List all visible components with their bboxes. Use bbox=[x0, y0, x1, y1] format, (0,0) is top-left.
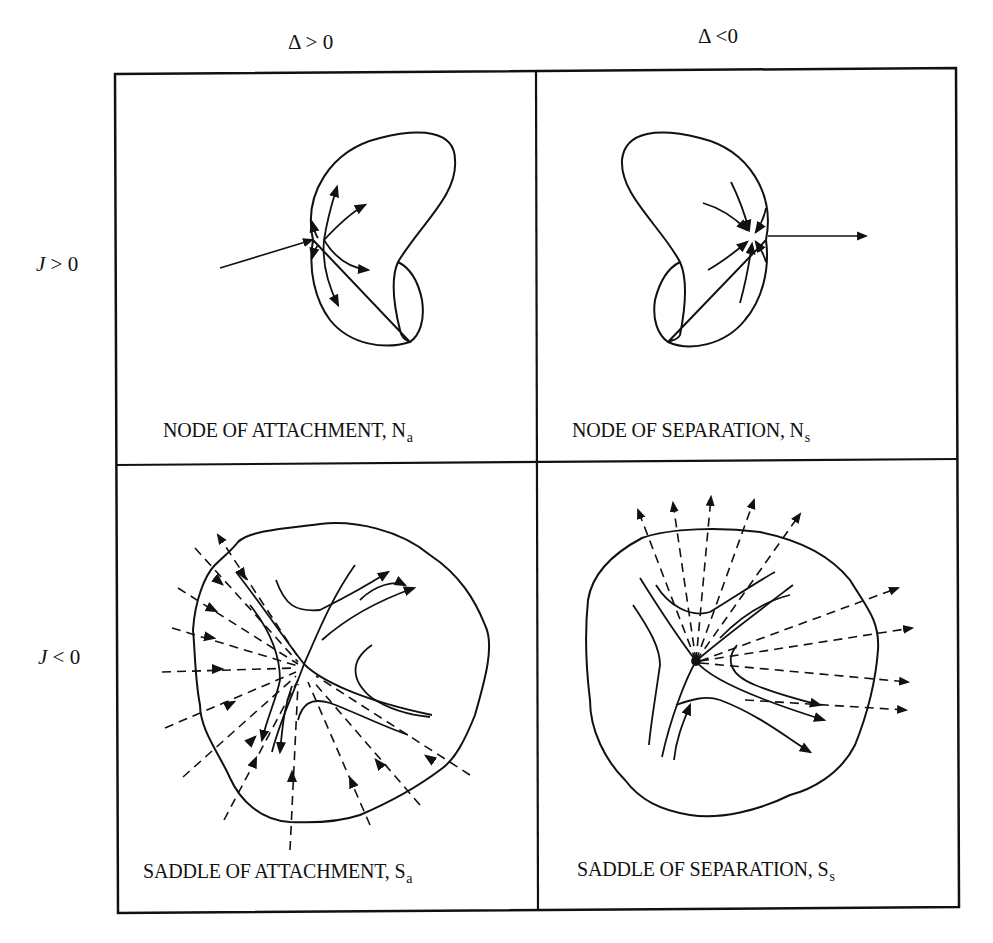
node-of-separation-drawing bbox=[622, 133, 866, 347]
cell-label-subscript: a bbox=[407, 430, 413, 445]
cell-label-text: NODE OF ATTACHMENT, N bbox=[163, 419, 406, 441]
cell-label-subscript: s bbox=[805, 430, 810, 445]
cell-label-saddle-of-separation: SADDLE OF SEPARATION, Ss bbox=[577, 858, 835, 885]
saddle-of-separation-drawing bbox=[586, 497, 912, 816]
cell-label-subscript: a bbox=[406, 871, 412, 886]
diagram-grid bbox=[0, 0, 993, 943]
cell-label-node-of-attachment: NODE OF ATTACHMENT, Na bbox=[163, 419, 413, 446]
cell-label-subscript: s bbox=[829, 869, 834, 884]
cell-label-text: NODE OF SEPARATION, N bbox=[572, 419, 804, 441]
cell-label-node-of-separation: NODE OF SEPARATION, Ns bbox=[572, 419, 810, 446]
saddle-of-attachment-drawing bbox=[162, 523, 489, 850]
grid-vertical-divider bbox=[536, 71, 538, 910]
cell-label-saddle-of-attachment: SADDLE OF ATTACHMENT, Sa bbox=[143, 860, 412, 887]
cell-label-text: SADDLE OF SEPARATION, S bbox=[577, 858, 828, 880]
cell-label-text: SADDLE OF ATTACHMENT, S bbox=[143, 860, 405, 882]
node-of-attachment-drawing bbox=[220, 133, 455, 346]
